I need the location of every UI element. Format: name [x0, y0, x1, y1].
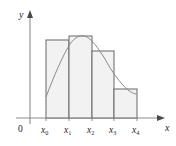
- rectangle-bar: [69, 36, 92, 118]
- x-axis-label: x: [164, 122, 170, 133]
- riemann-rectangles-figure: y x 0 x0 x1 x2 x3 x4: [0, 0, 176, 146]
- rectangles-group: [46, 36, 137, 118]
- x-tick-labels: x0 x1 x2 x3 x4: [40, 125, 139, 136]
- tick-label-x1: x1: [63, 125, 71, 136]
- tick-label-x3: x3: [108, 125, 116, 136]
- rectangle-bar: [92, 51, 114, 118]
- y-axis-group: [27, 10, 33, 124]
- y-axis-arrow-icon: [27, 10, 33, 18]
- tick-label-x2: x2: [86, 125, 94, 136]
- tick-label-x4: x4: [131, 125, 139, 136]
- x-axis-arrow-icon: [157, 115, 165, 121]
- y-axis-label: y: [18, 9, 24, 20]
- tick-label-x0: x0: [40, 125, 48, 136]
- figure-canvas: y x 0 x0 x1 x2 x3 x4: [0, 0, 176, 146]
- origin-label: 0: [18, 124, 23, 134]
